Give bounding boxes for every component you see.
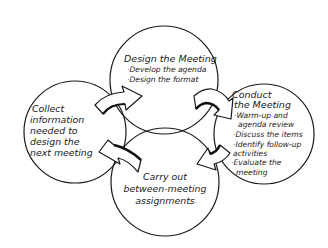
carry-out-text: Carry out xyxy=(143,171,187,182)
collect-text: next meeting xyxy=(30,147,93,158)
design-item: ·Design the format xyxy=(127,75,199,84)
conduct-item: activities xyxy=(233,149,267,158)
carry-out-circle xyxy=(111,128,219,236)
conduct-item: ·Discuss the items xyxy=(233,130,303,139)
conduct-title: the Meeting xyxy=(234,99,291,110)
design-item: ·Develop the agenda xyxy=(127,65,207,74)
conduct-item: meeting xyxy=(236,168,268,177)
design-title: Design the Meeting xyxy=(124,53,217,64)
collect-text: design the xyxy=(30,136,80,147)
carry-out-text: between-meeting xyxy=(124,183,207,194)
meeting-cycle-diagram: Design the Meeting ·Develop the agenda ·… xyxy=(0,0,328,248)
conduct-item: ·Warm-up and xyxy=(234,111,288,120)
conduct-item: ·Evaluate the xyxy=(231,158,282,167)
carry-out-text: assignments xyxy=(135,195,195,206)
conduct-node: Conduct the Meeting ·Warm-up and agenda … xyxy=(231,89,303,177)
collect-text: needed to xyxy=(30,125,78,136)
diagram-canvas: Design the Meeting ·Develop the agenda ·… xyxy=(0,0,328,248)
carry-out-node: Carry out between-meeting assignments xyxy=(124,171,207,206)
curved-arrow-icon xyxy=(194,89,233,119)
design-node: Design the Meeting ·Develop the agenda ·… xyxy=(124,53,217,84)
conduct-item: ·Identify follow-up xyxy=(233,140,302,149)
collect-node: Collect information needed to design the… xyxy=(30,103,93,158)
conduct-item: agenda review xyxy=(238,120,295,129)
collect-text: Collect xyxy=(32,103,64,114)
curved-arrow-icon xyxy=(99,140,141,172)
collect-text: information xyxy=(30,114,84,125)
